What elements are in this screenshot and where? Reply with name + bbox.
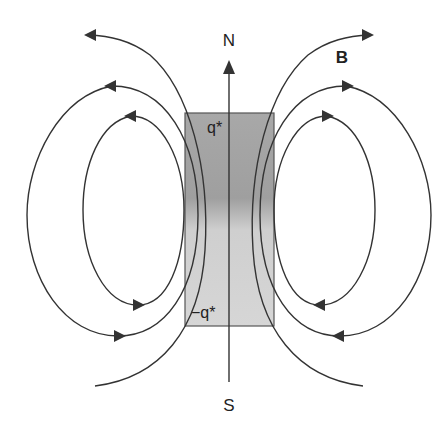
top-charge-label: q* (207, 119, 222, 136)
arrow-left-loop-inner-top (124, 110, 136, 122)
field-line-right-loop-outer (260, 86, 431, 336)
field-line-right-loop-inner (274, 116, 375, 305)
field-b-label: B (336, 48, 348, 67)
bar-magnet-field-diagram: N S B q* −q* (0, 0, 448, 439)
bottom-charge-label: −q* (191, 304, 215, 321)
field-line-left-loop-inner (83, 116, 184, 305)
arrow-right-loop-inner-bottom (313, 299, 325, 311)
arrow-left-outer-open (84, 29, 96, 41)
south-label: S (223, 396, 234, 415)
arrow-right-outer-open (362, 29, 374, 41)
field-line-left-loop-outer (27, 86, 198, 336)
axis-arrow-north-icon (223, 60, 235, 74)
arrow-left-loop-outer-bottom (114, 330, 126, 342)
north-label: N (223, 31, 235, 50)
arrow-left-loop-outer-top (104, 80, 116, 92)
arrow-left-loop-inner-bottom (133, 299, 145, 311)
arrow-right-loop-inner-top (322, 110, 334, 122)
arrow-right-loop-outer-top (342, 80, 354, 92)
arrow-right-loop-outer-bottom (332, 330, 344, 342)
